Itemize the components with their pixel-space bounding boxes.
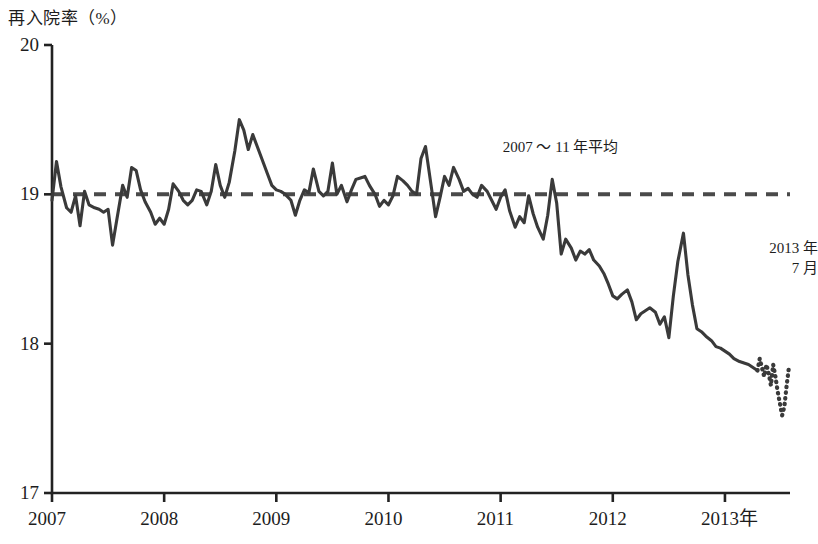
- x-tick-2011: 2011: [477, 509, 514, 528]
- last-point-annotation: 2013 年7 月: [673, 238, 818, 279]
- x-tick-2013: 2013年: [701, 509, 758, 528]
- y-tick-17: 17: [20, 483, 39, 502]
- x-tick-2007: 2007: [28, 509, 66, 528]
- y-tick-19: 19: [20, 184, 39, 203]
- y-tick-18: 18: [20, 334, 39, 353]
- x-tick-2010: 2010: [364, 509, 402, 528]
- x-tick-2009: 2009: [252, 509, 290, 528]
- readmission-rate-dotted: [757, 359, 788, 416]
- x-tick-2008: 2008: [140, 509, 178, 528]
- y-tick-20: 20: [20, 35, 39, 54]
- readmission-rate-solid: [52, 120, 757, 371]
- average-line-annotation: 2007 〜 11 年平均: [478, 137, 618, 157]
- x-tick-2012: 2012: [589, 509, 627, 528]
